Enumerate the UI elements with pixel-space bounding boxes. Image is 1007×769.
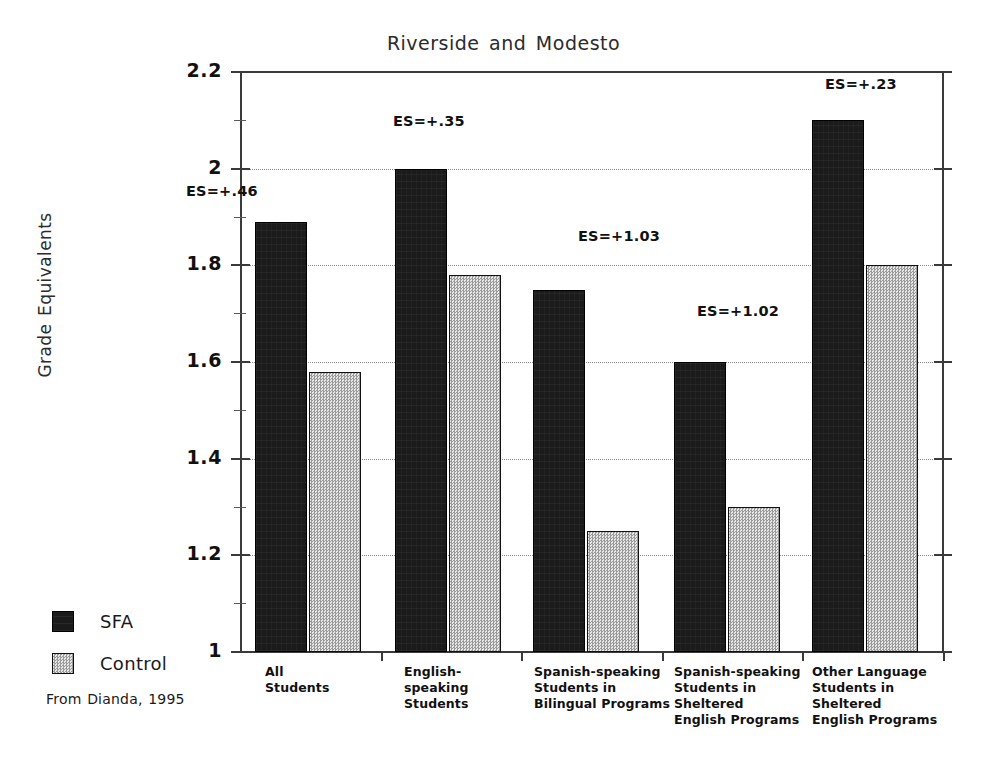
y-axis-tick-label: 1.2: [160, 542, 222, 564]
y-axis-tick-right: [934, 168, 952, 170]
y-axis-tick: [231, 651, 250, 653]
bar-sfa[interactable]: [255, 222, 307, 652]
chart-title: Riverside and Modesto: [0, 32, 1007, 54]
source-note: From Dianda, 1995: [46, 691, 185, 707]
y-axis-tick-right: [934, 264, 952, 266]
y-axis-tick: [231, 71, 250, 73]
legend-item-label: SFA: [100, 611, 133, 632]
bar-sfa[interactable]: [533, 290, 585, 653]
x-axis-category-label: Spanish-speaking Students in Sheltered E…: [674, 664, 824, 728]
x-axis-category-label: Other Language Students in Sheltered Eng…: [812, 664, 962, 728]
x-axis-tick: [381, 652, 383, 661]
bar-control[interactable]: [866, 265, 918, 652]
chart-figure: Riverside and Modesto Grade Equivalents …: [0, 0, 1007, 769]
x-axis-category-label: All Students: [265, 664, 395, 696]
effect-size-label: ES=+.46: [186, 183, 258, 199]
legend-item-label: Control: [100, 653, 167, 674]
x-axis-tick: [802, 652, 804, 661]
y-axis-minor-tick: [234, 120, 246, 121]
y-axis-minor-tick: [234, 410, 246, 411]
y-axis-tick-label: 2: [160, 156, 222, 178]
bar-control[interactable]: [449, 275, 501, 652]
x-axis-tick: [943, 652, 945, 661]
y-axis-minor-tick: [234, 507, 246, 508]
effect-size-label: ES=+1.03: [578, 228, 660, 244]
bar-control[interactable]: [728, 507, 780, 652]
y-axis-tick-right: [934, 554, 952, 556]
y-axis-tick: [231, 264, 250, 266]
effect-size-label: ES=+.35: [393, 113, 465, 129]
bar-control[interactable]: [587, 531, 639, 652]
y-axis-tick-label: 1.6: [160, 349, 222, 371]
y-axis-tick-label: 1.8: [160, 252, 222, 274]
legend-item-control[interactable]: Control: [52, 642, 232, 684]
effect-size-label: ES=+.23: [825, 76, 897, 92]
legend-item-sfa[interactable]: SFA: [52, 600, 232, 642]
bar-sfa[interactable]: [812, 120, 864, 652]
bar-sfa[interactable]: [674, 362, 726, 652]
x-axis-category-label: Spanish-speaking Students in Bilingual P…: [534, 664, 684, 712]
y-axis-tick-right: [934, 361, 952, 363]
y-axis-title: Grade Equivalents: [35, 185, 55, 405]
bar-control[interactable]: [309, 372, 361, 652]
y-axis-tick-right: [934, 458, 952, 460]
y-axis-tick: [231, 168, 250, 170]
y-axis-tick: [231, 554, 250, 556]
y-axis-tick: [231, 458, 250, 460]
y-axis-minor-tick: [234, 313, 246, 314]
y-axis-tick: [231, 361, 250, 363]
legend: SFA Control: [52, 600, 232, 684]
x-axis-tick: [521, 652, 523, 661]
y-axis-tick-label: 1.4: [160, 446, 222, 468]
plot-top-border: [240, 71, 944, 73]
x-axis-tick: [662, 652, 664, 661]
y-axis-tick-label: 2.2: [160, 59, 222, 81]
bar-sfa[interactable]: [395, 169, 447, 652]
effect-size-label: ES=+1.02: [697, 303, 779, 319]
dark-solid-swatch-icon: [52, 611, 74, 632]
y-axis-minor-tick: [234, 217, 246, 218]
x-axis-category-label: English- speaking Students: [404, 664, 534, 712]
light-dotted-swatch-icon: [52, 653, 74, 674]
y-axis-tick-right: [934, 71, 952, 73]
y-axis-minor-tick: [234, 603, 246, 604]
